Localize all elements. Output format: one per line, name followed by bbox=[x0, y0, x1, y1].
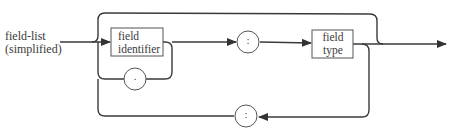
field-type-line-2: type bbox=[320, 44, 346, 57]
field-type-label: field type bbox=[320, 31, 346, 57]
syntax-diagram bbox=[0, 0, 453, 130]
field-identifier-line-2: identifier bbox=[118, 43, 160, 56]
return-loop-left bbox=[98, 79, 234, 116]
diagram-title: field-list (simplified) bbox=[5, 30, 62, 56]
dot-symbol: . bbox=[125, 70, 145, 82]
field-identifier-label: field identifier bbox=[118, 30, 160, 56]
field-identifier-line-1: field bbox=[118, 30, 160, 43]
colon-to-type-line bbox=[260, 42, 311, 43]
field-type-line-1: field bbox=[320, 31, 346, 44]
return-colon-symbol: : bbox=[236, 108, 256, 120]
title-line-2: (simplified) bbox=[5, 43, 62, 56]
colon-symbol: : bbox=[238, 34, 258, 46]
